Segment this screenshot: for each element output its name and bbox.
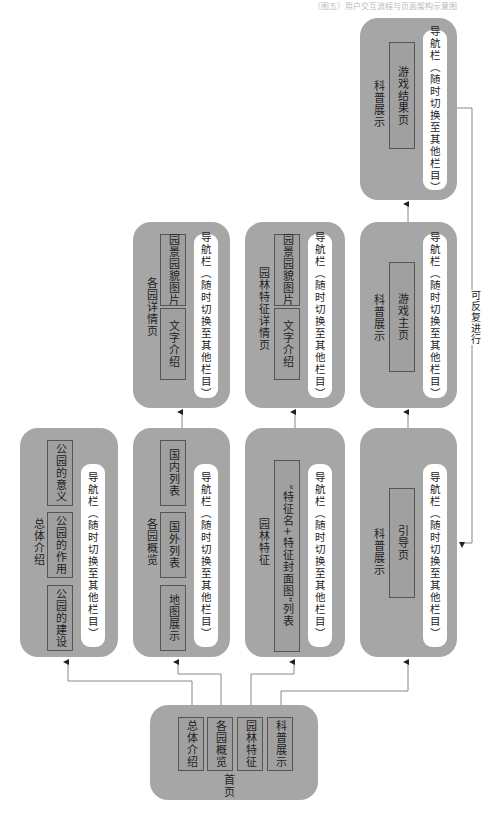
nav-bar[interactable]: 导航栏（随时切换至其他栏目） (81, 464, 105, 647)
nav-bar[interactable]: 导航栏（随时切换至其他栏目） (194, 464, 218, 647)
home-title: 首页 (220, 774, 236, 798)
science-game-title: 科普展示 (370, 294, 386, 342)
gardens-item-foreign: 国外列表 (160, 512, 186, 578)
gardens-item-domestic: 国内列表 (160, 440, 186, 506)
science-result-page: 游戏结果页 (389, 42, 415, 149)
nav-bar[interactable]: 导航栏（随时切换至其他栏目） (423, 464, 447, 647)
home-page-box: 总体介绍 各园概览 园林特征 科普展示 首页 (150, 705, 318, 800)
gardens-title: 各园概览 (143, 518, 159, 566)
feature-detail-images: 园景园貌图片 (274, 234, 300, 306)
overview-box: 总体介绍 公园的建设 公园的作用 公园的意义 导航栏（随时切换至其他栏目） (20, 428, 118, 657)
garden-detail-images: 园景园貌图片 (160, 234, 186, 306)
garden-detail-title: 各园详情页 (143, 277, 159, 337)
feature-detail-box: 园林特征详情页 文字介绍 园景园貌图片 导航栏（随时切换至其他栏目） (245, 222, 345, 408)
science-result-box: 科普展示 游戏结果页 导航栏（随时切换至其他栏目） (360, 18, 457, 200)
gardens-item-map: 地图展示 (160, 585, 186, 651)
features-box: 园林特征 “特征名+特征封面图”列表 导航栏（随时切换至其他栏目） (245, 428, 345, 657)
feature-detail-text: 文字介绍 (274, 308, 300, 380)
overview-title: 总体介绍 (30, 518, 46, 566)
features-list: “特征名+特征封面图”列表 (274, 460, 300, 652)
nav-bar[interactable]: 导航栏（随时切换至其他栏目） (423, 30, 447, 190)
science-guide-page: 引导页 (389, 488, 415, 598)
home-item-overview[interactable]: 总体介绍 (178, 717, 204, 771)
science-result-title: 科普展示 (370, 80, 386, 128)
feature-detail-title: 园林特征详情页 (255, 267, 271, 351)
overview-item-meaning: 公园的意义 (47, 440, 73, 506)
overview-item-function: 公园的作用 (47, 512, 73, 578)
features-title: 园林特征 (255, 518, 271, 566)
nav-bar[interactable]: 导航栏（随时切换至其他栏目） (308, 464, 332, 647)
science-guide-title: 科普展示 (370, 528, 386, 576)
gardens-box: 各园概览 地图展示 国外列表 国内列表 导航栏（随时切换至其他栏目） (133, 428, 230, 657)
science-game-box: 科普展示 游戏主页 导航栏（随时切换至其他栏目） (360, 222, 457, 408)
home-item-gardens[interactable]: 各园概览 (207, 717, 233, 771)
science-guide-box: 科普展示 引导页 导航栏（随时切换至其他栏目） (360, 428, 457, 657)
nav-bar[interactable]: 导航栏（随时切换至其他栏目） (308, 234, 332, 398)
nav-bar[interactable]: 导航栏（随时切换至其他栏目） (423, 234, 447, 398)
overview-item-construction: 公园的建设 (47, 585, 73, 651)
nav-bar[interactable]: 导航栏（随时切换至其他栏目） (194, 234, 218, 398)
science-game-home: 游戏主页 (389, 262, 415, 372)
garden-detail-box: 各园详情页 文字介绍 园景园貌图片 导航栏（随时切换至其他栏目） (133, 222, 230, 408)
home-item-science[interactable]: 科普展示 (267, 717, 293, 771)
loop-label: 可反复进行 (467, 290, 482, 345)
home-item-features[interactable]: 园林特征 (237, 717, 263, 771)
garden-detail-text: 文字介绍 (160, 308, 186, 380)
